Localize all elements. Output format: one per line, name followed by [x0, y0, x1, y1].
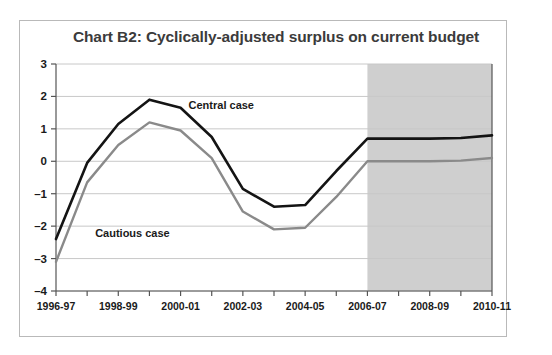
x-tick-label: 2002-03 [224, 300, 263, 312]
y-tick-label: –1 [34, 188, 47, 200]
forecast-shading [367, 64, 492, 291]
x-tick-label: 2006-07 [348, 300, 387, 312]
y-axis-tick-labels: 3210–1–2–3–4 [34, 58, 47, 297]
chart-plot: 3210–1–2–3–4 1996-971998-992000-012002-0… [0, 0, 552, 355]
plot-area-wrapper: 3210–1–2–3–4 1996-971998-992000-012002-0… [0, 0, 552, 355]
x-axis-ticks [56, 291, 492, 296]
y-tick-label: –4 [34, 285, 47, 297]
x-tick-label: 2010-11 [473, 300, 511, 312]
x-tick-label: 2004-05 [286, 300, 325, 312]
x-tick-label: 1998-99 [99, 300, 138, 312]
x-axis-tick-labels: 1996-971998-992000-012002-032004-052006-… [37, 300, 511, 312]
x-tick-label: 1996-97 [37, 300, 76, 312]
y-tick-label: 1 [41, 123, 48, 135]
y-tick-label: 0 [41, 155, 47, 167]
y-tick-label: –3 [34, 253, 47, 265]
y-axis-ticks [51, 64, 56, 291]
y-tick-label: 3 [41, 58, 47, 70]
forecast-shaded-region [367, 64, 492, 291]
x-tick-label: 2008-09 [410, 300, 449, 312]
annotation-cautious-case: Cautious case [95, 227, 170, 239]
annotation-central-case: Central case [189, 99, 254, 111]
x-tick-label: 2000-01 [161, 300, 200, 312]
y-tick-label: 2 [41, 90, 47, 102]
chart-figure: Chart B2: Cyclically-adjusted surplus on… [0, 0, 552, 355]
y-tick-label: –2 [34, 220, 47, 232]
